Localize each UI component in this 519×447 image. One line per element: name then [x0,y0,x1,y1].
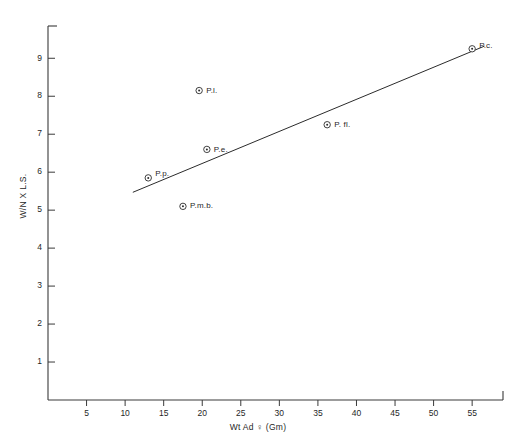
axis-titles-group: Wt Ad ♀ (Gm) W/N X L.S. [18,173,286,432]
x-tick-label-5: 5 [84,408,89,418]
figure-container: 510152025303540455055 123456789 P.p.P.m.… [0,0,519,447]
y-tick-label-3: 3 [37,280,42,290]
x-tick-label-40: 40 [352,408,362,418]
x-tick-label-25: 25 [236,408,246,418]
point-label: P. fl. [334,120,350,129]
regression-line-group [133,46,485,192]
point-label: P.l. [206,86,217,95]
y-tick-label-8: 8 [37,90,42,100]
point-label: P.c. [479,41,493,50]
point-label: P.p. [155,169,169,178]
data-point: P.l. [196,86,218,95]
point-label: P.m.b. [190,201,213,210]
y-tick-label-6: 6 [37,166,42,176]
fit-line [133,46,485,192]
point-marker-dot [206,148,208,150]
data-point: P. fl. [324,120,350,129]
point-marker-dot [198,90,200,92]
y-tick-label-1: 1 [37,356,42,366]
x-tick-label-55: 55 [467,408,477,418]
y-tick-label-4: 4 [37,242,42,252]
y-tick-label-9: 9 [37,53,42,63]
point-marker-dot [471,48,473,50]
x-axis-ticks: 510152025303540455055 [84,400,477,418]
x-axis-title: Wt Ad ♀ (Gm) [230,422,287,432]
data-points-group: P.p.P.m.b.P.e.P.l.P. fl.P.c. [145,41,493,211]
data-point: P.p. [145,169,169,181]
point-marker-dot [147,177,149,179]
y-axis-ticks: 123456789 [37,53,55,367]
axes-group [48,26,503,400]
x-tick-label-35: 35 [313,408,323,418]
x-tick-label-50: 50 [429,408,439,418]
x-tick-label-15: 15 [159,408,169,418]
data-point: P.e. [204,145,228,154]
data-point: P.c. [469,41,493,52]
y-tick-label-7: 7 [37,128,42,138]
y-tick-label-2: 2 [37,318,42,328]
x-tick-label-45: 45 [390,408,400,418]
y-tick-label-5: 5 [37,204,42,214]
point-marker-dot [326,124,328,126]
x-tick-label-20: 20 [198,408,208,418]
scatter-plot: 510152025303540455055 123456789 P.p.P.m.… [0,0,519,447]
x-tick-label-10: 10 [120,408,130,418]
y-axis-title: W/N X L.S. [18,173,28,218]
data-point: P.m.b. [180,201,213,210]
point-label: P.e. [214,145,228,154]
point-marker-dot [182,205,184,207]
x-tick-label-30: 30 [275,408,285,418]
